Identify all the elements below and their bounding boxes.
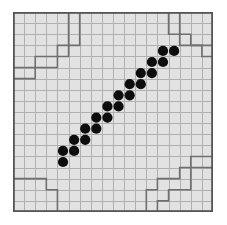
stone-dot[interactable]	[102, 112, 112, 122]
stone-dot[interactable]	[136, 79, 146, 89]
grid-puzzle-container	[0, 0, 227, 225]
stone-dot[interactable]	[69, 135, 79, 145]
stone-dot[interactable]	[91, 112, 101, 122]
stone-dot[interactable]	[113, 101, 123, 111]
stone-dot[interactable]	[125, 90, 135, 100]
stone-dot[interactable]	[147, 57, 157, 67]
stone-dot[interactable]	[102, 101, 112, 111]
stone-dot[interactable]	[147, 68, 157, 78]
stone-dot[interactable]	[136, 68, 146, 78]
stone-dot[interactable]	[58, 157, 68, 167]
stone-dot[interactable]	[158, 57, 168, 67]
puzzle-board[interactable]	[13, 12, 213, 212]
stone-dot[interactable]	[169, 46, 179, 56]
stone-dot[interactable]	[80, 135, 90, 145]
stone-dot[interactable]	[58, 146, 68, 156]
stone-dot[interactable]	[113, 90, 123, 100]
stone-dot[interactable]	[80, 124, 90, 134]
stone-dot[interactable]	[91, 124, 101, 134]
board-canvas[interactable]	[13, 12, 213, 212]
stone-dot[interactable]	[125, 79, 135, 89]
stone-dot[interactable]	[158, 46, 168, 56]
stone-dot[interactable]	[69, 146, 79, 156]
